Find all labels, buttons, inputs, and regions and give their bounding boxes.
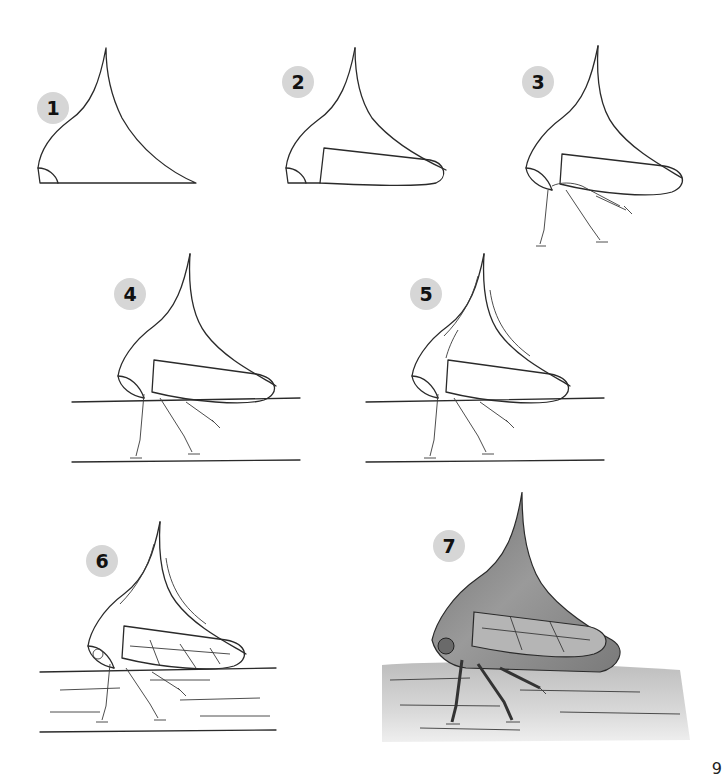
step-badge-5: 5: [410, 278, 442, 310]
step-7-drawing: [382, 492, 690, 742]
step-badge-7: 7: [433, 530, 465, 562]
step-2-drawing: [286, 48, 446, 185]
step-badge-2: 2: [282, 66, 314, 98]
step-6-drawing: [40, 522, 276, 732]
step-number: 1: [46, 97, 59, 119]
step-5-drawing: [366, 254, 604, 462]
step-badge-6: 6: [86, 545, 118, 577]
step-number: 6: [95, 550, 108, 572]
step-number: 3: [531, 71, 544, 93]
step-number: 5: [419, 283, 432, 305]
step-badge-3: 3: [522, 66, 554, 98]
step-4-drawing: [72, 254, 300, 462]
step-badge-4: 4: [114, 278, 146, 310]
step-badge-1: 1: [37, 92, 69, 124]
step-number: 7: [442, 535, 455, 557]
step-number: 2: [291, 71, 304, 93]
corner-page-mark: 9: [712, 759, 722, 778]
step-number: 4: [123, 283, 136, 305]
